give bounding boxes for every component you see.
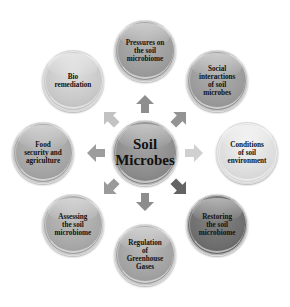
soil-microbes-diagram: Soil Microbes Pressures on the soil micr… [0, 0, 290, 307]
arrow-to-restoring [167, 175, 192, 200]
node-label: Assessing the soil microbiome [55, 213, 92, 237]
node-assessing-soil-microbiome: Assessing the soil microbiome [42, 194, 104, 256]
arrow-shape [136, 193, 154, 211]
node-pressures-on-soil-microbiome: Pressures on the soil microbiome [114, 20, 176, 82]
arrow-shape [167, 175, 192, 200]
node-label: Regulation of Greenhouse Gases [127, 239, 164, 271]
node-label: Restoring the soil microbiome [199, 213, 236, 237]
arrow-shape [167, 106, 192, 131]
arrow-to-social [167, 106, 192, 131]
arrow-shape [87, 144, 105, 162]
node-restoring-soil-microbiome: Restoring the soil microbiome [186, 194, 248, 256]
center-label: Soil Microbes [115, 137, 175, 169]
node-regulation-greenhouse-gases: Regulation of Greenhouse Gases [114, 224, 176, 286]
center-node-soil-microbes: Soil Microbes [112, 120, 178, 186]
node-food-security-agriculture: Food security and agriculture [12, 122, 74, 184]
arrow-to-pressures [136, 95, 154, 113]
arrow-to-regulation [136, 193, 154, 211]
node-label: Conditions of soil environment [228, 141, 267, 165]
node-label: Food security and agriculture [24, 141, 62, 165]
node-label: Social interactions of soil microbes [199, 65, 235, 97]
node-social-interactions: Social interactions of soil microbes [186, 50, 248, 112]
arrow-shape [185, 144, 203, 162]
arrow-to-conditions [185, 144, 203, 162]
arrow-to-assessing [98, 175, 123, 200]
arrow-shape [98, 175, 123, 200]
node-bio-remediation: Bio remediation [42, 50, 104, 112]
node-label: Pressures on the soil microbiome [126, 39, 165, 63]
node-conditions-of-soil-environment: Conditions of soil environment [216, 122, 278, 184]
arrow-to-bio [98, 106, 123, 131]
arrow-shape [136, 95, 154, 113]
node-label: Bio remediation [54, 73, 91, 89]
arrow-to-food [87, 144, 105, 162]
arrow-shape [98, 106, 123, 131]
